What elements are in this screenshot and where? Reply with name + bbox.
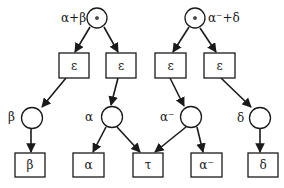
box-label: ε [216,59,222,73]
box-label: ε [118,59,124,73]
edge-calpham-ltau [155,127,186,152]
leaf-box-beta: β [15,153,45,177]
dot-icon [96,17,98,19]
edge-calpham-lalpham [197,127,203,152]
box-label: β [27,158,34,172]
edge-calpha-ltau [117,127,140,152]
root-label: α⁻+δ [208,11,240,25]
mid-node-alpha-minus: α⁻ [160,107,202,128]
epsilon-box: ε [204,53,235,78]
dot-icon [194,17,196,19]
edges [31,27,260,152]
circle-label: α⁻ [160,110,174,124]
edge-root2-e3 [173,27,189,52]
box-label: α⁻ [199,158,213,172]
root-node-alpha-plus-beta: α+β [61,8,107,28]
box-label: α [84,158,92,172]
circle-label: β [8,110,15,124]
box-label: ε [71,59,77,73]
leaf-box-delta: δ [248,153,278,177]
edge-e2-calpha [111,78,118,105]
epsilon-box: ε [59,53,89,78]
leaf-box-tau: τ [133,153,163,177]
box-label: δ [259,158,266,172]
edge-e1-cbeta [42,78,66,107]
leaf-box-alpha-minus: α⁻ [191,153,222,177]
box-label: ε [167,59,173,73]
edge-root2-e4 [200,28,216,52]
root-label: α+β [61,11,86,25]
epsilon-box: ε [106,53,136,78]
mid-node-alpha: α [85,107,123,128]
diagram-canvas: α+β α⁻+δ ε ε ε ε β α α⁻ δ β [0,0,284,188]
leaf-box-alpha: α [73,153,104,177]
mid-node-beta: β [8,108,43,129]
circle-label: δ [237,111,244,125]
edge-e3-calpham [170,78,184,106]
mid-node-delta: δ [237,108,271,129]
edge-calpha-lalpha [93,127,106,152]
edge-root1-e1 [75,27,90,52]
epsilon-box: ε [155,53,186,78]
circle-label: α [85,110,93,124]
box-label: τ [145,158,152,172]
root-node-alpham-plus-delta: α⁻+δ [185,8,240,28]
edge-e4-cdelta [221,78,251,107]
edge-root1-e2 [104,27,118,52]
